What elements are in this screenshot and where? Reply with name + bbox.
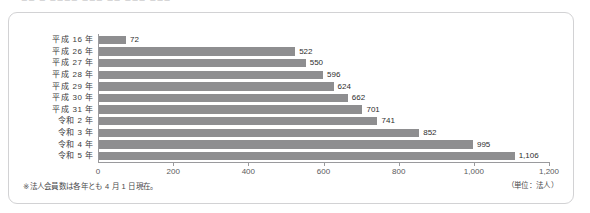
bar-value-label: 995: [477, 139, 490, 151]
bar-row: 平成 26 年522: [99, 46, 549, 58]
bar: [99, 71, 323, 79]
bar: [99, 105, 362, 113]
x-axis-tick-label: 1,200: [539, 167, 559, 176]
category-label: 平成 28 年: [52, 69, 94, 81]
x-axis-tick: [399, 162, 400, 166]
category-label: 令和 3 年: [58, 127, 95, 139]
bar-value-label: 596: [327, 69, 340, 81]
bar-row: 平成 27 年550: [99, 57, 549, 69]
bar-value-label: 72: [130, 34, 139, 46]
category-label: 令和 5 年: [58, 150, 95, 162]
x-axis-tick: [324, 162, 325, 166]
bar-row: 平成 28 年596: [99, 69, 549, 81]
x-axis-tick-label: 200: [166, 167, 179, 176]
bar-value-label: 522: [299, 46, 312, 58]
category-label: 平成 30 年: [52, 92, 94, 104]
bar: [99, 47, 295, 55]
x-axis-tick-label: 400: [242, 167, 255, 176]
bar-row: 令和 2 年741: [99, 115, 549, 127]
x-axis-tick: [173, 162, 174, 166]
bar-row: 平成 30 年662: [99, 92, 549, 104]
x-axis-tick: [248, 162, 249, 166]
plot-area: 平成 16 年72平成 26 年522平成 27 年550平成 28 年596平…: [98, 34, 549, 162]
bar-row: 平成 31 年701: [99, 104, 549, 116]
x-axis-tick-label: 800: [392, 167, 405, 176]
x-axis-tick-label: 0: [96, 167, 100, 176]
bar: [99, 140, 473, 148]
category-label: 平成 31 年: [52, 104, 94, 116]
bar-value-label: 701: [366, 104, 379, 116]
chart-unit-note: （単位：法人）: [507, 179, 558, 190]
bar-row: 令和 5 年1,106: [99, 150, 549, 162]
bar: [99, 59, 306, 67]
bar-value-label: 662: [352, 92, 365, 104]
bar-chart: 平成 16 年72平成 26 年522平成 27 年550平成 28 年596平…: [9, 13, 575, 205]
bar-value-label: 624: [338, 81, 351, 93]
chart-footnote: ※法人会員数は各年とも 4 月 1 日現在。: [23, 180, 158, 191]
x-axis-tick-label: 1,000: [464, 167, 484, 176]
bar-row: 平成 16 年72: [99, 34, 549, 46]
bar: [99, 82, 334, 90]
bar-value-label: 550: [310, 57, 323, 69]
cropped-header-text: — ■■ ■ ■■■■ ■■■ ■■ ■■■ ■■■: [6, 0, 171, 3]
bar: [99, 36, 126, 44]
bar-value-label: 741: [381, 115, 394, 127]
x-axis-tick: [474, 162, 475, 166]
category-label: 令和 2 年: [58, 115, 95, 127]
category-label: 平成 29 年: [52, 81, 94, 93]
x-axis-tick-label: 600: [317, 167, 330, 176]
bar: [99, 117, 377, 125]
bar: [99, 94, 348, 102]
bar-value-label: 852: [423, 127, 436, 139]
category-label: 平成 27 年: [52, 57, 94, 69]
cropped-header-strip: — ■■ ■ ■■■■ ■■■ ■■ ■■■ ■■■: [0, 0, 590, 7]
bar: [99, 129, 419, 137]
category-label: 平成 16 年: [52, 34, 94, 46]
x-axis-tick: [549, 162, 550, 166]
category-label: 令和 4 年: [58, 139, 95, 151]
bar-row: 令和 3 年852: [99, 127, 549, 139]
bar-value-label: 1,106: [519, 150, 539, 162]
bar: [99, 152, 515, 160]
figure-card: 平成 16 年72平成 26 年522平成 27 年550平成 28 年596平…: [8, 12, 574, 204]
category-label: 平成 26 年: [52, 46, 94, 58]
bar-row: 令和 4 年995: [99, 139, 549, 151]
bar-row: 平成 29 年624: [99, 81, 549, 93]
